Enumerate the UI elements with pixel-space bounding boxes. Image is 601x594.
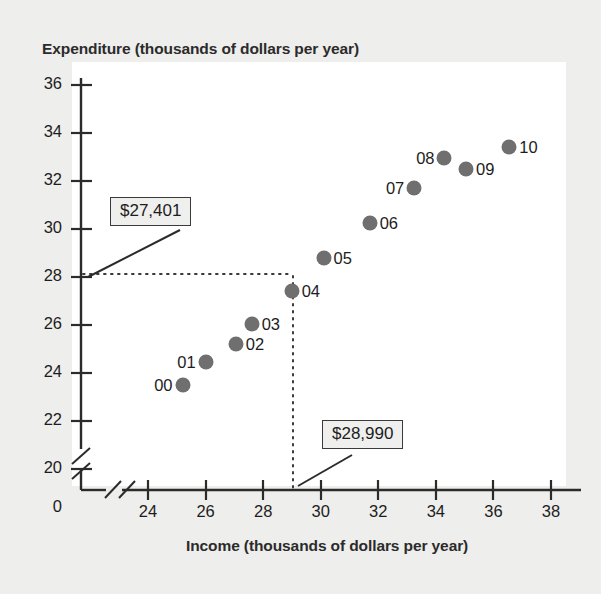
data-point-label-03: 03 <box>262 314 280 333</box>
x-tick-label: 24 <box>131 502 165 521</box>
x-tick-label: 26 <box>189 502 223 521</box>
x-tick-label: 30 <box>304 502 338 521</box>
data-point-07 <box>407 181 422 196</box>
x-tick-label: 38 <box>534 502 568 521</box>
data-point-09 <box>459 162 474 177</box>
data-point-00 <box>175 378 190 393</box>
income-callout-leader <box>298 455 352 486</box>
data-point-label-00: 00 <box>154 376 172 395</box>
y-axis-origin-label: 0 <box>28 497 62 516</box>
data-point-label-10: 10 <box>519 138 537 157</box>
x-axis-break-mark-1 <box>105 481 121 498</box>
data-point-label-07: 07 <box>386 179 404 198</box>
y-tick-label: 28 <box>28 266 62 285</box>
data-point-06 <box>362 216 377 231</box>
data-point-label-04: 04 <box>302 282 320 301</box>
x-tick-label: 32 <box>361 502 395 521</box>
data-point-04 <box>284 284 299 299</box>
y-tick-label: 20 <box>28 458 62 477</box>
y-tick-label: 36 <box>28 74 62 93</box>
expenditure-callout-leader <box>88 230 180 277</box>
income-callout: $28,990 <box>322 420 403 449</box>
data-point-label-08: 08 <box>416 149 434 168</box>
y-tick-label: 26 <box>28 314 62 333</box>
data-point-label-05: 05 <box>334 248 352 267</box>
x-tick-label: 28 <box>246 502 280 521</box>
data-point-08 <box>437 151 452 166</box>
y-tick-label: 32 <box>28 170 62 189</box>
data-point-label-02: 02 <box>246 335 264 354</box>
y-tick-label: 22 <box>28 410 62 429</box>
data-point-label-01: 01 <box>177 353 195 372</box>
data-point-label-09: 09 <box>476 160 494 179</box>
expenditure-callout: $27,401 <box>110 197 191 226</box>
x-tick-label: 34 <box>419 502 453 521</box>
data-point-02 <box>228 337 243 352</box>
data-point-05 <box>316 250 331 265</box>
data-point-03 <box>244 316 259 331</box>
data-point-10 <box>502 140 517 155</box>
y-tick-label: 24 <box>28 362 62 381</box>
y-tick-label: 34 <box>28 122 62 141</box>
x-tick-label: 36 <box>476 502 510 521</box>
data-point-label-06: 06 <box>380 214 398 233</box>
data-point-01 <box>198 355 213 370</box>
y-axis-break-mark-1 <box>72 448 90 464</box>
scatter-plot-figure: Expenditure (thousands of dollars per ye… <box>0 0 601 594</box>
axes-and-gridlines <box>0 0 601 594</box>
y-tick-label: 30 <box>28 218 62 237</box>
